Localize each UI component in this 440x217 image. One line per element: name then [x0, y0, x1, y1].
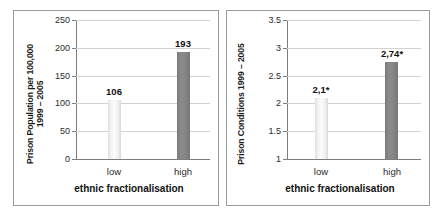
y-axis-tick — [283, 48, 287, 49]
bar-value-label-high: 193 — [175, 38, 191, 49]
y-axis-tick — [72, 76, 76, 77]
x-axis-line — [76, 159, 210, 160]
y-axis-tick-label: 2.5 — [268, 71, 281, 81]
y-axis-tick — [72, 20, 76, 21]
x-axis-title-prison-population: ethnic fractionalisation — [14, 183, 218, 194]
y-axis-tick — [283, 131, 287, 132]
bar-value-label-low: 106 — [106, 86, 122, 97]
bar-high — [177, 52, 190, 159]
y-axis-tick — [283, 76, 287, 77]
x-category-label-high: high — [383, 166, 401, 177]
y-axis-tick-label: 1 — [276, 154, 281, 164]
y-axis-tick-label: 250 — [55, 15, 70, 25]
x-category-label-low: low — [107, 166, 121, 177]
panel-prison-conditions: Prison Conditions 1999 – 2005 11.522.533… — [226, 10, 430, 206]
y-axis-tick-label: 150 — [55, 71, 70, 81]
y-axis-title-line-1: Prison Conditions 1999 – 2005 — [236, 43, 246, 164]
y-axis-tick — [283, 20, 287, 21]
y-axis-tick-label: 50 — [60, 126, 70, 136]
bar-high — [385, 62, 398, 159]
y-axis-tick — [72, 48, 76, 49]
y-axis-tick-label: 200 — [55, 43, 70, 53]
gridline — [287, 76, 421, 77]
y-axis-title-prison-conditions: Prison Conditions 1999 – 2005 — [231, 23, 251, 185]
y-axis-title-line-2: 1999 – 2005 — [35, 81, 45, 128]
y-axis-tick — [72, 159, 76, 160]
gridline — [76, 20, 210, 21]
plot-area-prison-population: 050100150200250106193 — [76, 20, 210, 160]
y-axis-tick-label: 100 — [55, 98, 70, 108]
y-axis-tick — [283, 159, 287, 160]
gridline — [287, 20, 421, 21]
plot-area-prison-conditions: 11.522.533.52,1*2,74* — [287, 20, 421, 160]
bar-low — [315, 98, 328, 159]
x-axis-title-prison-conditions: ethnic fractionalisation — [227, 183, 429, 194]
bar-low — [108, 100, 121, 159]
gridline — [287, 103, 421, 104]
y-axis-tick-label: 1.5 — [268, 126, 281, 136]
bar-value-label-low: 2,1* — [313, 84, 330, 95]
y-axis-tick-label: 2 — [276, 98, 281, 108]
y-axis-tick — [72, 131, 76, 132]
x-axis-line — [287, 159, 421, 160]
y-axis-tick-label: 3.5 — [268, 15, 281, 25]
panel-prison-population: Prison Population per 100,000 1999 – 200… — [13, 10, 219, 206]
y-axis-title-prison-population: Prison Population per 100,000 1999 – 200… — [17, 23, 53, 185]
gridline — [287, 131, 421, 132]
y-axis-tick-label: 0 — [65, 154, 70, 164]
y-axis-tick-label: 3 — [276, 43, 281, 53]
two-panel-bar-chart-figure: Prison Population per 100,000 1999 – 200… — [0, 0, 440, 217]
y-axis-tick — [72, 103, 76, 104]
x-category-label-high: high — [174, 166, 192, 177]
bar-value-label-high: 2,74* — [381, 48, 403, 59]
y-axis-title-line-1: Prison Population per 100,000 — [25, 44, 35, 164]
x-category-label-low: low — [314, 166, 328, 177]
y-axis-line — [287, 20, 288, 160]
y-axis-line — [76, 20, 77, 160]
y-axis-tick — [283, 103, 287, 104]
